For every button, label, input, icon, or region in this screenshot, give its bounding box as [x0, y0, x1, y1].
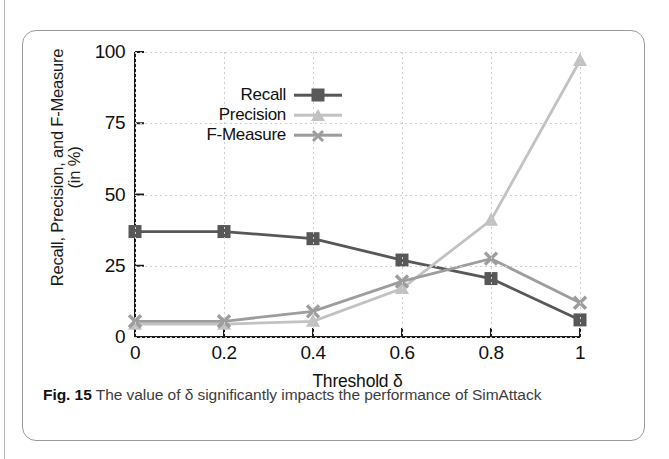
y-axis-title-line1: Recall, Precision, and F-Measure: [48, 49, 66, 287]
gridline-vertical: [580, 52, 581, 337]
legend-label-fmeasure: F-Measure: [207, 125, 287, 145]
chart-region: Recall, Precision, and F-Measure (in %) …: [22, 30, 645, 375]
legend-swatch-recall: [294, 86, 342, 104]
gridline-horizontal: [135, 266, 580, 267]
figure-number: Fig. 15: [43, 386, 92, 403]
triangle-marker-icon: [311, 109, 325, 121]
legend-label-precision: Precision: [219, 105, 286, 125]
chart-legend: Recall Precision F-Measure: [172, 85, 342, 145]
y-axis-tick-label: 100: [67, 41, 125, 63]
page-margin-rule: [4, 0, 5, 459]
legend-item-precision: Precision: [172, 105, 342, 125]
gridline-vertical: [491, 52, 492, 337]
gridline-horizontal: [135, 337, 580, 338]
x-axis-tick-label: 0.6: [367, 342, 437, 364]
figure-caption: Fig. 15 The value of δ significantly imp…: [43, 384, 603, 406]
y-axis-tick-label: 50: [67, 184, 125, 206]
gridline-horizontal: [135, 52, 580, 53]
x-axis-tick-label: 1: [545, 342, 615, 364]
legend-swatch-precision: [294, 106, 342, 124]
x-axis-tick-label: 0.4: [278, 342, 348, 364]
legend-item-recall: Recall: [172, 85, 342, 105]
gridline-vertical: [135, 52, 136, 337]
legend-label-recall: Recall: [241, 85, 286, 105]
square-marker-icon: [312, 89, 325, 102]
gridline-horizontal: [135, 195, 580, 196]
legend-item-fmeasure: F-Measure: [172, 125, 342, 145]
x-axis-tick-label: 0.2: [189, 342, 259, 364]
gridline-vertical: [402, 52, 403, 337]
legend-swatch-fmeasure: [294, 126, 342, 144]
cross-marker-icon: [312, 129, 325, 142]
x-axis-tick-label: 0: [100, 342, 170, 364]
y-axis-tick-label: 25: [67, 255, 125, 277]
figure-caption-text: The value of δ significantly impacts the…: [96, 386, 542, 403]
series-line-recall: [135, 232, 580, 320]
x-axis-tick-label: 0.8: [456, 342, 526, 364]
y-axis-tick-label: 75: [67, 112, 125, 134]
